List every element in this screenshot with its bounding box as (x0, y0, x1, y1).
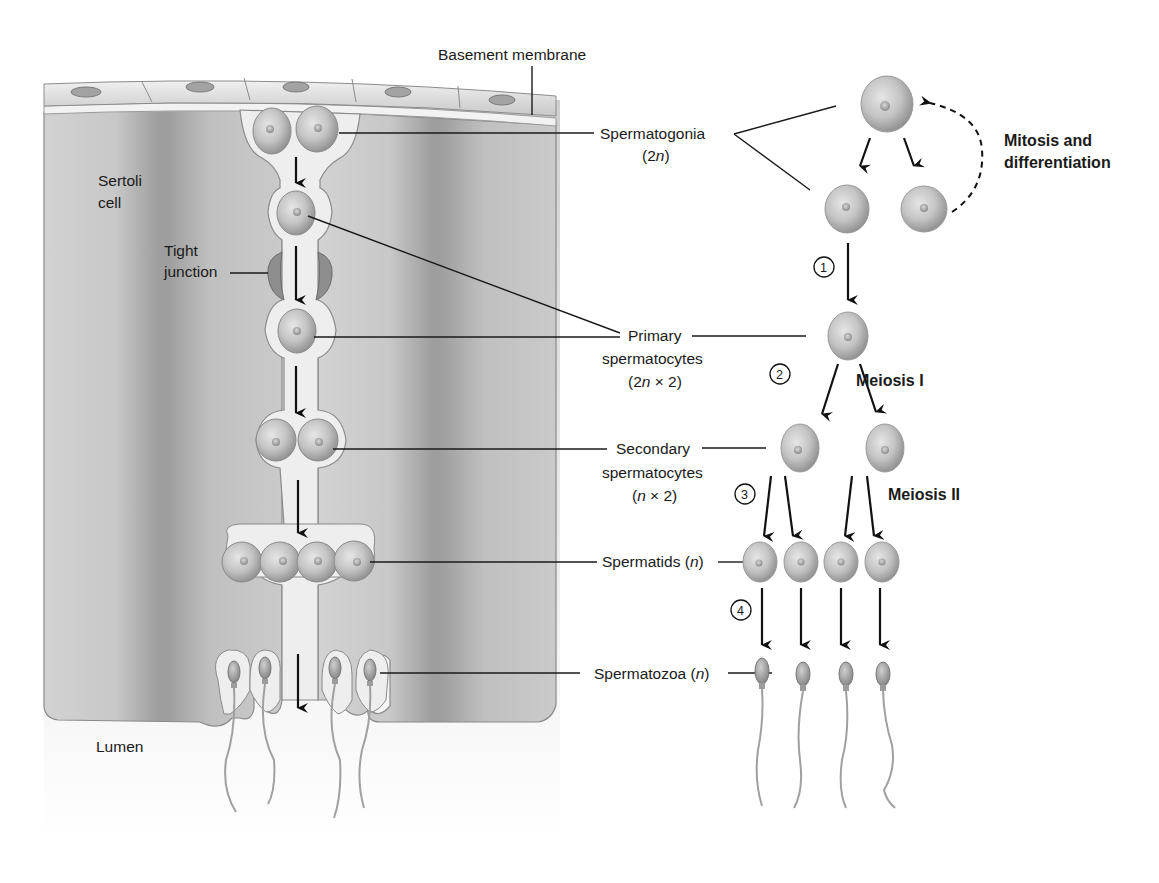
spermatozoa (755, 658, 895, 808)
label-primary-line2: spermatocytes (602, 350, 703, 367)
label-mitosis-line2: differentiation (1004, 154, 1111, 171)
label-basement-membrane: Basement membrane (438, 46, 586, 63)
stage-labels: Spermatogonia (2n) Primary spermatocytes… (594, 106, 836, 682)
step-2-number: 2 (776, 368, 783, 382)
step-4-number: 4 (737, 604, 744, 618)
tubule-section: Basement membrane Sertoli cell Tight jun… (44, 46, 586, 840)
label-spermatids: Spermatids (n) (602, 553, 704, 570)
spermatogenesis-diagram: Basement membrane Sertoli cell Tight jun… (0, 0, 1159, 883)
stem-spermatogonium (861, 76, 913, 132)
label-secondary-line2: spermatocytes (602, 464, 703, 481)
label-meiosis-1: Meiosis I (856, 372, 924, 389)
primary-spermatocyte-cell-lower (278, 309, 316, 353)
label-sertoli-line2: cell (98, 194, 121, 211)
spermatids (743, 542, 899, 582)
lineage-tree: Mitosis and differentiation 1 2 Meiosis … (731, 76, 1111, 808)
secondary-spermatocytes (781, 424, 904, 472)
primary-spermatocyte (828, 312, 868, 360)
label-secondary-line1: Secondary (616, 440, 690, 457)
sertoli-cell (44, 108, 282, 726)
label-spermatogonia: Spermatogonia (600, 125, 706, 142)
step-1-number: 1 (820, 261, 827, 275)
label-sertoli-line1: Sertoli (98, 172, 142, 189)
label-tight-line2: junction (163, 263, 217, 280)
label-primary-line1: Primary (628, 327, 682, 344)
label-primary-ploidy: (2n × 2) (628, 373, 682, 390)
label-tight-line1: Tight (164, 242, 199, 259)
label-spermatozoa: Spermatozoa (n) (594, 665, 709, 682)
primary-spermatocyte-cell-upper (277, 191, 315, 235)
daughter-spermatogonia (825, 185, 947, 233)
label-lumen: Lumen (96, 738, 143, 755)
sertoli-cell-right (318, 114, 556, 722)
label-secondary-ploidy: (n × 2) (632, 487, 677, 504)
label-spermatogonia-ploidy: (2n) (642, 147, 670, 164)
label-mitosis-line1: Mitosis and (1004, 132, 1092, 149)
label-meiosis-2: Meiosis II (888, 486, 960, 503)
step-3-number: 3 (741, 488, 748, 502)
